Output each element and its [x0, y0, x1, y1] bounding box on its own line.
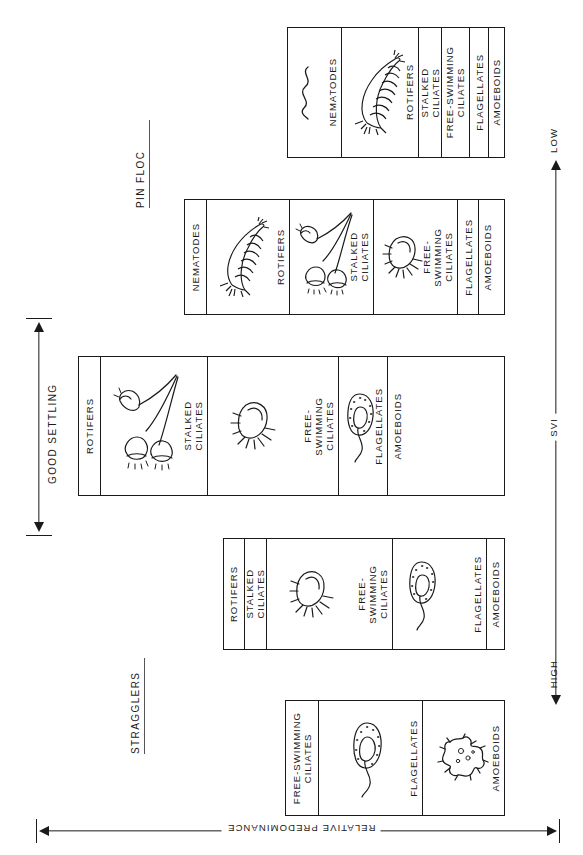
segment-amoeboids[interactable]: AMOEBOIDS — [479, 200, 495, 314]
segment-label: STALKED CILIATES — [419, 68, 441, 118]
stack-good-settling: ROTIFERS — [78, 356, 505, 496]
segment-free-swimming-ciliates[interactable]: FREE-SWIMMING CILIATES — [442, 28, 471, 157]
stack-pin-floc-lowest: NEMATODES — [287, 27, 505, 158]
segment-rotifers[interactable]: ROTIFERS — [342, 28, 419, 157]
svi-axis-label-text: SVI — [548, 418, 559, 437]
svi-axis-label: SVI — [548, 414, 559, 441]
segment-label: FLAGELLATES — [408, 720, 419, 797]
svi-axis-label-high: HIGH — [548, 660, 559, 688]
segment-rotifers[interactable]: ROTIFERS — [224, 539, 245, 649]
flagellate-icon — [343, 388, 377, 464]
segment-amoeboids[interactable]: AMOEBOIDS — [489, 28, 504, 157]
segment-free-swimming-ciliates[interactable]: FREE-SWIMMING CILIATES — [286, 701, 319, 815]
rotifer-icon — [217, 217, 269, 297]
segment-stalked-ciliates[interactable]: STALKED CILIATES — [290, 200, 374, 314]
segment-label: FLAGELLATES — [472, 556, 483, 633]
segment-label: FLAGELLATES — [463, 219, 474, 296]
segment-label: ROTIFERS — [228, 566, 239, 622]
segment-label: ROTIFERS — [275, 229, 286, 285]
stalked-ciliate-icon — [113, 371, 183, 481]
amoeba-icon — [437, 733, 491, 783]
segment-stalked-ciliates[interactable]: STALKED CILIATES — [101, 357, 208, 495]
svi-axis-label-low: LOW — [548, 128, 559, 153]
segment-label: FREE- SWIMMING CILIATES — [302, 397, 335, 456]
segment-label: STALKED CILIATES — [348, 232, 370, 282]
segment-free-swimming-ciliates[interactable]: FREE- SWIMMING CILIATES — [374, 200, 458, 314]
segment-stalked-ciliates[interactable]: STALKED CILIATES — [419, 28, 442, 157]
segment-label: AMOEBOIDS — [490, 725, 501, 792]
stack-stragglers-highest: FREE-SWIMMING CILIATES — [285, 700, 505, 816]
stack-pin-floc-low: NEMATODES — [184, 199, 505, 315]
segment-label: FLAGELLATES — [373, 388, 384, 465]
segment-stalked-ciliates[interactable]: STALKED CILIATES — [245, 539, 267, 649]
segment-free-swimming-ciliates[interactable]: FREE- SWIMMING CILIATES — [208, 357, 339, 495]
segment-flagellates[interactable]: FLAGELLATES — [458, 200, 479, 314]
segment-amoeboids[interactable]: AMOEBOIDS — [388, 357, 406, 495]
segment-nematodes[interactable]: NEMATODES — [288, 28, 342, 157]
region-label-pin-floc: PIN FLOC — [135, 120, 150, 208]
region-label-stragglers: STRAGGLERS — [130, 658, 145, 754]
nematode-worm-icon — [294, 65, 320, 121]
segment-label: FLAGELLATES — [474, 54, 485, 131]
flagellate-icon — [349, 717, 385, 799]
segment-flagellates[interactable]: FLAGELLATES — [393, 539, 487, 649]
segment-label: AMOEBOIDS — [490, 561, 501, 628]
segment-label: STALKED CILIATES — [182, 401, 204, 451]
segment-label: AMOEBOIDS — [482, 224, 493, 291]
segment-label: FREE- SWIMMING CILIATES — [356, 565, 389, 624]
relative-predominance-axis-label: RELATIVE PREDOMINANCE — [222, 823, 381, 834]
segment-label: FREE- SWIMMING CILIATES — [421, 228, 454, 287]
free-swimming-ciliate-icon — [289, 563, 339, 625]
segment-label: ROTIFERS — [404, 64, 415, 120]
segment-label: NEMATODES — [190, 223, 201, 291]
segment-label: FREE-SWIMMING CILIATES — [291, 712, 313, 804]
segment-label: ROTIFERS — [84, 398, 95, 454]
segment-amoeboids[interactable]: AMOEBOIDS — [487, 539, 504, 649]
segment-flagellates[interactable]: FLAGELLATES — [339, 357, 388, 495]
segment-rotifers[interactable]: ROTIFERS — [207, 200, 290, 314]
free-swimming-ciliate-icon — [230, 393, 282, 459]
stack-stragglers-high: ROTIFERS STALKED CILIATES FREE- SWIMMING… — [223, 538, 505, 650]
segment-label: AMOEBOIDS — [392, 393, 403, 460]
segment-free-swimming-ciliates[interactable]: FREE- SWIMMING CILIATES — [267, 539, 393, 649]
segment-nematodes[interactable]: NEMATODES — [185, 200, 207, 314]
flagellate-icon — [405, 556, 439, 632]
segment-label: AMOEBOIDS — [491, 59, 502, 126]
segment-flagellates[interactable]: FLAGELLATES — [319, 701, 423, 815]
figure-canvas: PIN FLOC GOOD SETTLING STRAGGLERS NEMATO… — [0, 0, 583, 855]
segment-rotifers[interactable]: ROTIFERS — [79, 357, 101, 495]
segment-flagellates[interactable]: FLAGELLATES — [470, 28, 488, 157]
segment-label: FREE-SWIMMING CILIATES — [444, 46, 466, 138]
segment-label: NEMATODES — [327, 58, 338, 126]
segment-amoeboids[interactable]: AMOEBOIDS — [423, 701, 504, 815]
good-settling-range-arrow — [24, 318, 54, 536]
segment-label: STALKED CILIATES — [245, 569, 266, 619]
rotifer-icon — [350, 50, 406, 136]
